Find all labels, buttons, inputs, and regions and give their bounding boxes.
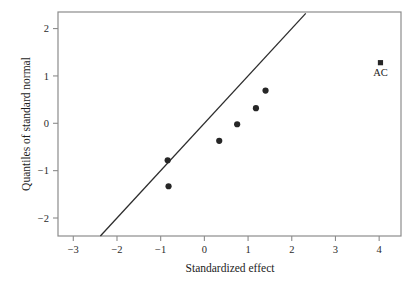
- y-tick-label: 1: [44, 71, 49, 82]
- data-point-circle: [234, 121, 240, 127]
- x-tick-label: 2: [289, 244, 294, 255]
- y-tick-label: −2: [38, 213, 49, 224]
- data-point-annotation: AC: [373, 67, 388, 78]
- x-tick-label: 3: [333, 244, 338, 255]
- x-tick-label: 0: [202, 244, 207, 255]
- x-axis-title: Standardized effect: [186, 262, 276, 274]
- normal-quantile-plot-figure: −3−2−101234 210−1−2 AC Standardized effe…: [0, 0, 417, 285]
- chart-canvas: −3−2−101234 210−1−2 AC Standardized effe…: [0, 0, 417, 285]
- y-tick-label: −1: [38, 165, 49, 176]
- x-tick-label: −3: [68, 244, 79, 255]
- data-point-square: [378, 60, 383, 65]
- y-tick-label: 0: [44, 118, 49, 129]
- data-point-circle: [262, 88, 268, 94]
- data-point-circle: [216, 138, 222, 144]
- y-tick-label: 2: [44, 23, 49, 34]
- x-tick-label: 4: [377, 244, 383, 255]
- data-point-labels: AC: [373, 67, 388, 78]
- x-tick-label: −1: [155, 244, 166, 255]
- data-point-circle: [165, 183, 171, 189]
- x-tick-label: −2: [111, 244, 122, 255]
- data-point-circle: [165, 157, 171, 163]
- data-point-circle: [253, 105, 259, 111]
- figure-background: [0, 0, 417, 285]
- x-tick-label: 1: [245, 244, 250, 255]
- y-axis-title: Quantiles of standard normal: [20, 57, 32, 191]
